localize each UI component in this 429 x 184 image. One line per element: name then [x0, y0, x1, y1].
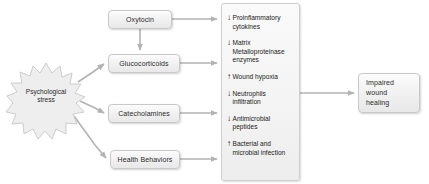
diagram-canvas: Psychological stress Oxytocin Glucocorti…: [0, 0, 429, 184]
effect-text: Antimicrobial peptides: [233, 115, 296, 132]
effect-item: ↓ Neutrophils infiltration: [227, 90, 295, 107]
effects-panel: ↓ Proinflammatory cytokines ↓ Matrix Met…: [221, 3, 300, 181]
node-glucocorticoids[interactable]: Glucocorticoids: [108, 54, 180, 73]
effect-text: Matrix Metalloproteinase enzymes: [233, 39, 296, 65]
arrow-down-icon: ↓: [227, 90, 231, 99]
effect-text: Bacterial and microbial infection: [233, 140, 296, 157]
impaired-label-line1: Impaired: [366, 78, 394, 88]
node-health-behaviors-label: Health Behaviors: [118, 155, 173, 164]
arrow-up-icon: ↑: [227, 140, 231, 149]
impaired-label-line3: healing: [366, 98, 394, 108]
node-catecholamines[interactable]: Catecholamines: [108, 104, 180, 123]
effect-text: Proinflammatory cytokines: [233, 14, 296, 31]
node-health-behaviors[interactable]: Health Behaviors: [110, 150, 180, 169]
effect-item: ↓ Matrix Metalloproteinase enzymes: [227, 39, 295, 65]
effect-text: Neutrophils infiltration: [233, 90, 296, 107]
arrow-up-icon: ↑: [227, 73, 231, 82]
impaired-label-line2: wound: [366, 88, 394, 98]
psychological-stress-starburst: [6, 62, 86, 140]
effect-item: ↑ Bacterial and microbial infection: [227, 140, 295, 157]
node-impaired-wound-healing[interactable]: Impaired wound healing: [358, 73, 420, 113]
effect-item: ↓ Antimicrobial peptides: [227, 115, 295, 132]
node-oxytocin[interactable]: Oxytocin: [108, 10, 172, 29]
effect-text: Wound hypoxia: [233, 73, 296, 82]
effect-item: ↑ Wound hypoxia: [227, 73, 295, 82]
arrow-down-icon: ↓: [227, 39, 231, 48]
effect-item: ↓ Proinflammatory cytokines: [227, 14, 295, 31]
node-glucocorticoids-label: Glucocorticoids: [119, 59, 168, 68]
node-oxytocin-label: Oxytocin: [126, 15, 154, 24]
node-catecholamines-label: Catecholamines: [118, 109, 170, 118]
arrow-down-icon: ↓: [227, 115, 231, 124]
arrow-down-icon: ↓: [227, 14, 231, 23]
